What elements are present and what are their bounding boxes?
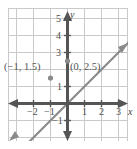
point-marker-minus1-1point5 [48,75,53,80]
y-axis-arrow-down [63,131,72,141]
y-axis [63,11,72,141]
line-arrowhead-lower-left [9,131,19,141]
x-axis-label: x [128,107,132,117]
point-label-minus1-1point5: (−1, 1.5) [4,62,41,73]
x-tick-label-3: 3 [116,107,121,117]
x-tick-label-minus1: −1 [44,107,55,117]
x-tick-label-minus2: −2 [27,107,38,117]
y-tick-label-5: 5 [56,14,61,24]
y-tick-label-4: 4 [56,31,61,41]
x-axis-arrow-left [8,99,18,108]
x-tick-label-2: 2 [99,107,104,117]
coordinate-plane-figure: 5 4 3 1 −1 −2 −1 1 2 3 x y (−1, 1.5) (0,… [0,0,137,149]
graph-canvas [0,0,137,149]
y-tick-label-minus1: −1 [52,116,63,126]
y-tick-label-3: 3 [56,48,61,58]
point-label-0-2point5: (0, 2.5) [70,62,101,73]
y-tick-label-1: 1 [57,82,62,92]
y-axis-label: y [70,10,74,20]
x-tick-label-1: 1 [82,107,87,117]
